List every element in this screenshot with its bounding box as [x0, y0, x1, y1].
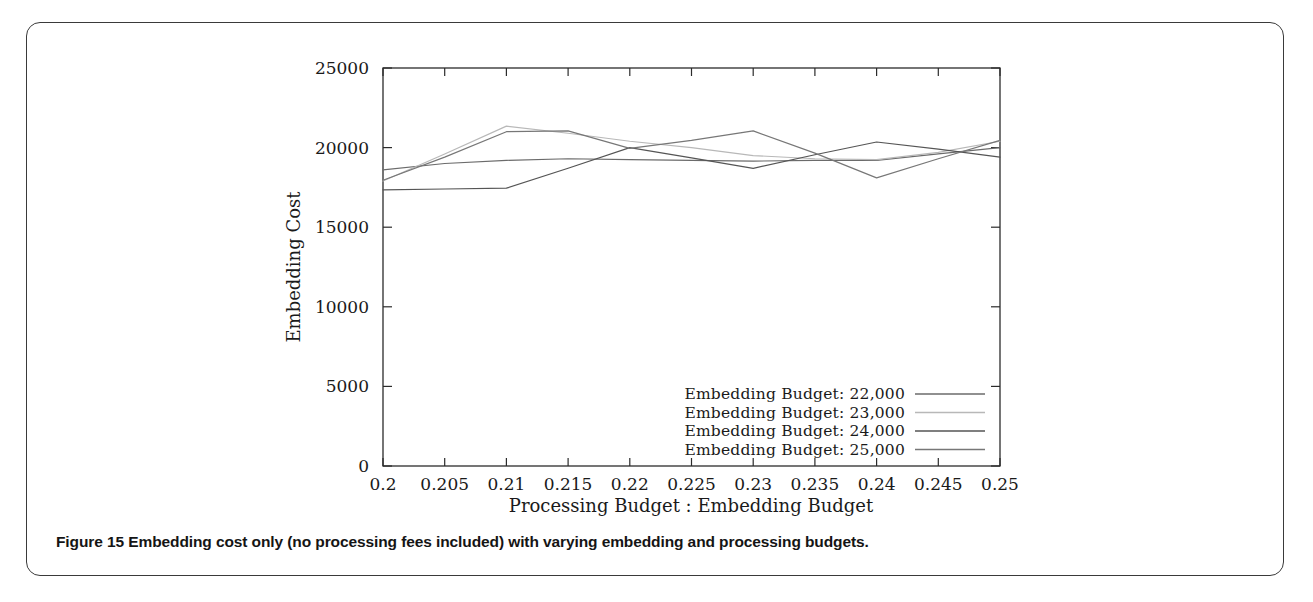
- caption-label: Figure 15: [56, 533, 124, 550]
- figure-border: [26, 22, 1284, 576]
- caption-text: Embedding cost only (no processing fees …: [128, 533, 869, 550]
- figure-root: 0.20.2050.210.2150.220.2250.230.2350.240…: [0, 0, 1313, 602]
- figure-caption: Figure 15 Embedding cost only (no proces…: [56, 533, 1076, 551]
